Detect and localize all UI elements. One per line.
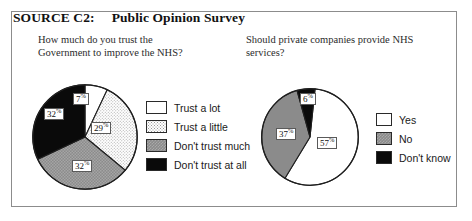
legend-swatch-icon <box>376 151 392 164</box>
pie-value-label: 32% <box>44 108 64 120</box>
pie-value-label: 7% <box>73 93 89 105</box>
legend-swatch-icon <box>376 132 392 145</box>
source-figure-page: SOURCE C2: Public Opinion Survey How muc… <box>0 0 472 221</box>
legend-item-private-label: Don't know <box>399 152 451 164</box>
legend-item-private-row[interactable]: No <box>376 129 451 148</box>
legend-swatch-icon <box>146 158 167 171</box>
figure-title-row: SOURCE C2: Public Opinion Survey <box>13 10 245 26</box>
legend-trust-government: Trust a lotTrust a littleDon't trust muc… <box>146 98 250 174</box>
legend-item-trust-row[interactable]: Trust a lot <box>146 98 250 117</box>
pie-value-label: 29% <box>91 122 111 134</box>
legend-item-private-row[interactable]: Don't know <box>376 148 451 167</box>
legend-item-trust-label: Don't trust at all <box>174 159 247 171</box>
question-caption-right: Should private companies provide NHS ser… <box>246 34 426 59</box>
pie-value-label: 32% <box>72 160 92 172</box>
legend-item-trust-label: Trust a little <box>174 121 228 133</box>
pie-value-label: 6% <box>300 93 316 105</box>
legend-item-private-label: Yes <box>399 114 416 126</box>
legend-item-private-label: No <box>399 133 412 145</box>
legend-swatch-icon <box>146 101 167 114</box>
legend-private-companies: YesNoDon't know <box>376 110 451 167</box>
legend-item-trust-row[interactable]: Don't trust much <box>146 136 250 155</box>
legend-item-private-row[interactable]: Yes <box>376 110 451 129</box>
source-label: SOURCE C2: <box>13 10 95 26</box>
pie-value-label: 57% <box>317 137 337 149</box>
legend-item-trust-row[interactable]: Don't trust at all <box>146 155 250 174</box>
legend-swatch-icon <box>146 120 167 133</box>
pie-value-label: 37% <box>276 128 296 140</box>
legend-item-trust-row[interactable]: Trust a little <box>146 117 250 136</box>
page-title: Public Opinion Survey <box>112 10 245 26</box>
legend-swatch-icon <box>146 139 167 152</box>
legend-item-trust-label: Don't trust much <box>174 140 250 152</box>
legend-item-trust-label: Trust a lot <box>174 102 220 114</box>
question-caption-left: How much do you trust the Government to … <box>38 34 188 59</box>
legend-swatch-icon <box>376 113 392 126</box>
